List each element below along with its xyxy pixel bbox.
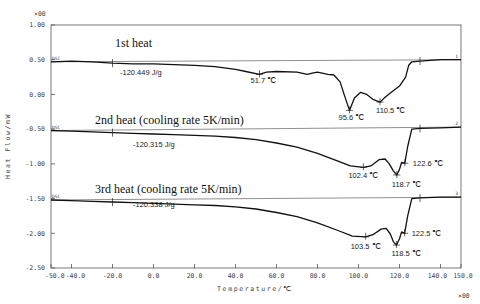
y-tick-label: -1.50 xyxy=(25,195,45,203)
x-tick-label: 0.0 xyxy=(148,272,160,280)
enthalpy-label: -120.449 J/g xyxy=(120,68,162,77)
x-tick-label: 60.0 xyxy=(269,272,285,280)
peak-label: 102.4 ℃ xyxy=(348,171,378,180)
series-2: DSC22nd heat (cooling rate 5K/min)-120.3… xyxy=(51,113,461,189)
peak-label: 103.5 ℃ xyxy=(351,242,381,251)
series-title: 1st heat xyxy=(115,36,153,50)
y-axis-title: Heat Flow/mW xyxy=(4,113,12,179)
y-tick-label: -0.50 xyxy=(25,125,45,133)
peak-label: 122.5 ℃ xyxy=(412,229,442,238)
x-multiplier-label: ×00 xyxy=(458,292,470,300)
x-tick-label: -50.0 xyxy=(45,272,65,280)
y-tick-label: -2.50 xyxy=(25,264,45,272)
x-axis: -50.0-40.0-20.00.020.040.060.080.0100.01… xyxy=(45,264,473,280)
y-tick-label: 1.00 xyxy=(29,21,45,29)
y-tick-label: 0.00 xyxy=(29,91,45,99)
series-3: DSC33rd heat (cooling rate 5K/min)-120.3… xyxy=(51,182,461,258)
x-tick-label: -40.0 xyxy=(66,272,86,280)
series-title: 2nd heat (cooling rate 5K/min) xyxy=(95,113,244,127)
peak-label: 95.6 ℃ xyxy=(338,113,364,122)
y-tick-label: 0.50 xyxy=(29,56,45,64)
peak-label: 118.5 ℃ xyxy=(391,249,420,258)
y-axis: 1.000.500.00-0.50-1.00-1.50-2.00-2.50 xyxy=(25,21,55,272)
series-1: DSC11st heat-120.449 J/g51.7 ℃95.6 ℃110.… xyxy=(51,36,461,122)
x-tick-label: 140.0 xyxy=(428,272,448,280)
peak-label: 51.7 ℃ xyxy=(250,76,276,85)
dsc-chart: 1.000.500.00-0.50-1.00-1.50-2.00-2.50 -5… xyxy=(0,0,480,304)
series-title: 3rd heat (cooling rate 5K/min) xyxy=(95,182,242,196)
series-layer: DSC11st heat-120.449 J/g51.7 ℃95.6 ℃110.… xyxy=(51,36,461,258)
x-axis-title: Temperature/℃ xyxy=(217,285,293,293)
y-tick-label: -2.00 xyxy=(25,230,45,238)
peak-label: 118.7 ℃ xyxy=(392,180,421,189)
curve-number: 3 xyxy=(455,191,458,196)
curve-number: 1 xyxy=(455,54,458,59)
x-tick-label: 150.0 xyxy=(453,272,473,280)
x-tick-label: 120.0 xyxy=(390,272,410,280)
dsc-label: DSC xyxy=(52,125,60,130)
peak-label: 122.6 ℃ xyxy=(413,159,443,168)
dsc-label: DSC xyxy=(52,56,60,61)
dsc-label: DSC xyxy=(52,194,60,199)
enthalpy-label: -120.315 J/g xyxy=(133,140,175,149)
enthalpy-label: -120.338 J/g xyxy=(133,200,175,209)
x-tick-label: 100.0 xyxy=(349,272,369,280)
y-multiplier-label: ×00 xyxy=(34,10,46,18)
peak-label: 110.5 ℃ xyxy=(376,106,405,115)
x-tick-label: -20.0 xyxy=(103,272,123,280)
x-tick-label: 20.0 xyxy=(187,272,203,280)
x-tick-label: 40.0 xyxy=(228,272,244,280)
y-tick-label: -1.00 xyxy=(25,160,45,168)
curve-number: 2 xyxy=(455,121,458,126)
x-tick-label: 80.0 xyxy=(310,272,326,280)
